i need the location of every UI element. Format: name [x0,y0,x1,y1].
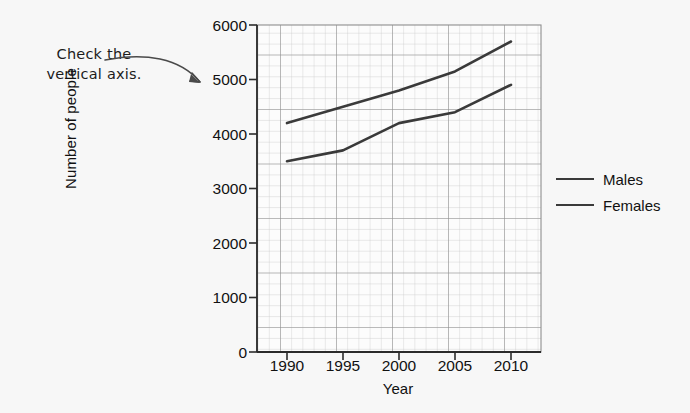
legend-label-males: Males [603,172,643,187]
y-tick-0: 0 [187,345,247,361]
legend-label-females: Females [603,198,661,213]
x-tick-2010: 2010 [481,357,541,375]
x-tick-2000: 2000 [369,357,429,375]
legend-item-females: Females [556,192,661,218]
legend-swatch-females [556,204,594,206]
x-tick-2005: 2005 [425,357,485,375]
y-tick-1000: 1000 [187,290,247,306]
annotation-line-2: vertical axis. [14,64,174,84]
x-tick-1995: 1995 [313,357,373,375]
series-females-line [287,85,511,162]
y-tick-2000: 2000 [187,236,247,252]
chart-axes [257,25,541,352]
y-tick-5000: 5000 [187,72,247,88]
y-axis-ticks [249,25,257,352]
y-tick-6000: 6000 [187,18,247,34]
y-tick-3000: 3000 [187,181,247,197]
x-tick-1990: 1990 [257,357,317,375]
y-axis-tick-labels: 6000 5000 4000 3000 2000 1000 0 [185,0,247,413]
annotation-note: Check the vertical axis. [14,44,174,84]
y-tick-4000: 4000 [187,127,247,143]
chart-gridlines [257,25,541,352]
chart-legend: Males Females [556,166,661,218]
legend-item-males: Males [556,166,661,192]
y-axis-title: Number of people [62,19,79,239]
legend-swatch-males [556,178,594,180]
series-males-line [287,42,511,124]
x-axis-title: Year [255,380,541,397]
chart-figure: Check the vertical axis. Number of peopl… [0,0,690,413]
